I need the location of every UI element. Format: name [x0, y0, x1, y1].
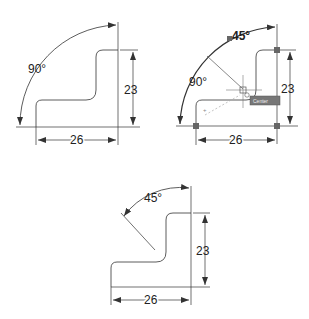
angle-dimension-old: 90° [189, 75, 207, 89]
snap-tooltip: Center [250, 96, 280, 105]
figure-editing: 45° 90° Center + 23 26 [176, 24, 298, 147]
figure-result: 45° 23 26 [111, 186, 210, 307]
svg-text:Center: Center [253, 98, 268, 104]
profile-shape [196, 50, 277, 126]
width-dimension: 26 [144, 293, 158, 307]
width-dimension: 26 [229, 133, 243, 147]
height-dimension: 23 [124, 83, 138, 97]
angle-dimension-new: 45° [232, 29, 250, 43]
profile-shape [111, 213, 191, 287]
angle-rubberband-line [207, 56, 243, 89]
cursor-plus: + [203, 107, 207, 113]
profile-shape [36, 50, 118, 127]
figure-original: 90° 23 26 [16, 22, 140, 147]
drawing-canvas[interactable]: 90° 23 26 45° 90° Center + [0, 0, 309, 319]
tracking-line [205, 95, 240, 115]
angle-dimension: 90° [28, 62, 46, 76]
width-dimension: 26 [70, 133, 84, 147]
height-dimension: 23 [196, 244, 210, 258]
angle-dimension: 45° [144, 191, 162, 205]
angle-extension-line [121, 213, 155, 250]
grip-bottom-right[interactable] [274, 123, 280, 129]
height-dimension: 23 [281, 82, 295, 96]
grip-bottom-left[interactable] [193, 123, 199, 129]
grip-top-right[interactable] [274, 47, 280, 53]
